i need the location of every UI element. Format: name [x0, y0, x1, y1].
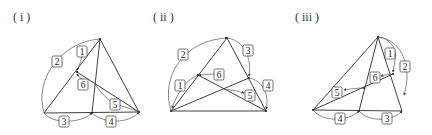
- label-3: 3: [243, 45, 253, 56]
- arc-5: [224, 89, 244, 93]
- svg-text:1: 1: [388, 49, 393, 59]
- label-2: 2: [52, 56, 62, 67]
- svg-text:5: 5: [248, 91, 253, 101]
- figure-ii: ( ii ) 1 2 3 4: [153, 10, 273, 112]
- label-6: 6: [214, 69, 224, 80]
- edge: [77, 72, 139, 112]
- svg-text:3: 3: [385, 114, 390, 124]
- svg-text:2: 2: [403, 62, 408, 72]
- label-1: 1: [385, 48, 395, 59]
- svg-text:3: 3: [246, 46, 251, 56]
- label-5: 5: [110, 99, 120, 110]
- figure-i: ( i ) 1 2 3: [13, 10, 140, 127]
- figure-i-title: ( i ): [13, 10, 30, 24]
- svg-text:1: 1: [178, 81, 183, 91]
- svg-text:1: 1: [80, 47, 85, 57]
- svg-text:6: 6: [217, 70, 222, 80]
- label-1: 1: [175, 80, 185, 91]
- figure-iii: ( iii ) 1 2 3 4: [295, 10, 410, 124]
- vertex: [265, 110, 267, 112]
- label-1: 1: [77, 46, 87, 57]
- svg-text:5: 5: [335, 88, 340, 98]
- arc-3: [359, 111, 402, 119]
- svg-text:4: 4: [109, 117, 114, 127]
- svg-text:2: 2: [55, 57, 60, 67]
- label-4: 4: [335, 113, 345, 124]
- svg-text:3: 3: [62, 117, 67, 127]
- arc-6: [199, 74, 214, 75]
- figure-ii-title: ( ii ): [153, 10, 174, 24]
- edge: [313, 74, 393, 110]
- edge: [313, 110, 402, 111]
- svg-text:4: 4: [266, 81, 271, 91]
- label-5: 5: [245, 90, 255, 101]
- edge: [44, 39, 100, 113]
- label-4: 4: [263, 80, 273, 91]
- label-4: 4: [106, 116, 116, 127]
- label-6: 6: [370, 72, 380, 83]
- label-3: 3: [382, 113, 392, 124]
- label-2: 2: [178, 49, 188, 60]
- svg-text:4: 4: [338, 114, 343, 124]
- label-5: 5: [332, 87, 342, 98]
- svg-text:5: 5: [113, 100, 118, 110]
- label-6: 6: [78, 79, 88, 90]
- svg-text:6: 6: [81, 80, 86, 90]
- svg-text:6: 6: [373, 73, 378, 83]
- figure-iii-title: ( iii ): [295, 10, 319, 24]
- label-3: 3: [59, 116, 69, 127]
- label-2: 2: [400, 61, 410, 72]
- arc-5: [344, 88, 364, 90]
- vertex: [76, 71, 78, 73]
- svg-text:2: 2: [181, 50, 186, 60]
- edge: [92, 39, 100, 113]
- diagram-canvas: ( i ) 1 2 3: [0, 0, 432, 135]
